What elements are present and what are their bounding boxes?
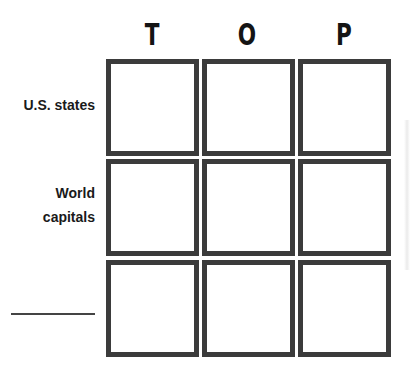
grid-cell-r2-c3[interactable] (298, 159, 391, 256)
column-header-t: T (141, 19, 163, 51)
grid-cell-r3-c2[interactable] (202, 260, 295, 357)
grid-cell-r2-c2[interactable] (202, 159, 295, 256)
row-label-blank-line[interactable] (11, 313, 95, 315)
grid-cell-r1-c1[interactable] (106, 59, 199, 156)
row-label-us-states: U.S. states (23, 93, 95, 117)
row-label-line: World (43, 181, 95, 205)
grid-cell-r3-c3[interactable] (298, 260, 391, 357)
row-label-line: capitals (43, 205, 95, 229)
grid-cell-r3-c1[interactable] (106, 260, 199, 357)
scan-artifact (404, 120, 410, 270)
column-header-p: P (333, 19, 355, 51)
row-label-world-capitals: World capitals (43, 181, 95, 229)
column-header-o: O (236, 19, 258, 51)
row-label-line: U.S. states (23, 93, 95, 117)
grid-cell-r1-c3[interactable] (298, 59, 391, 156)
grid-cell-r1-c2[interactable] (202, 59, 295, 156)
grid-cell-r2-c1[interactable] (106, 159, 199, 256)
